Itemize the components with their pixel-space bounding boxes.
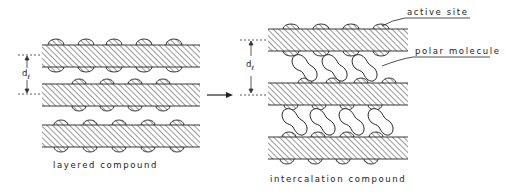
left-spacing-label: dℓ	[22, 68, 30, 80]
spacing-subscript: ℓ	[27, 73, 29, 80]
left-layer-1	[42, 39, 200, 72]
annotation-polar-molecule: polar molecule	[415, 46, 501, 56]
spacing-subscript: ℓ	[251, 64, 253, 71]
annotation-active-site: active site	[407, 7, 469, 17]
right-layer-1	[268, 24, 408, 56]
caption-intercalation-compound: intercalation compound	[270, 174, 406, 184]
right-layer-2	[268, 78, 408, 110]
right-spacing-indicator	[240, 40, 268, 95]
caption-layered-compound: layered compound	[53, 160, 158, 170]
left-layer-3	[42, 120, 200, 152]
right-layer-3	[268, 132, 408, 164]
molecule-row-1	[292, 55, 377, 82]
left-layer-2	[42, 79, 200, 111]
right-layers	[268, 24, 408, 164]
transition-arrow-icon	[207, 92, 233, 98]
molecule-row-2	[282, 109, 393, 136]
left-layers	[42, 39, 200, 152]
right-spacing-label: dℓ	[246, 59, 254, 71]
